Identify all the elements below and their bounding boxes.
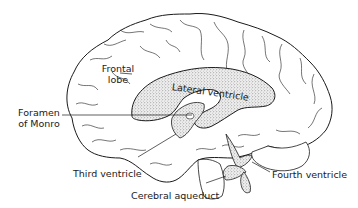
label-fourth-ventricle: Fourth ventricle: [272, 169, 347, 180]
label-foramen-of-monro: Foramen of Monro: [14, 107, 64, 129]
foramen-line-2: of Monro: [14, 118, 64, 129]
interthalamic-adhesion: [186, 113, 194, 119]
label-third-ventricle: Third ventricle: [73, 168, 142, 179]
frontal-lobe-line-1: Frontal: [100, 63, 136, 74]
brain-diagram: Frontal lobe Lateral ventricle Foramen o…: [0, 0, 358, 208]
foramen-line-1: Foramen: [14, 107, 64, 118]
label-cerebral-aqueduct: Cerebral aqueduct: [131, 190, 219, 201]
label-frontal-lobe: Frontal lobe: [100, 63, 136, 85]
frontal-lobe-line-2: lobe: [100, 74, 136, 85]
spinal-canal-shape: [241, 172, 251, 193]
